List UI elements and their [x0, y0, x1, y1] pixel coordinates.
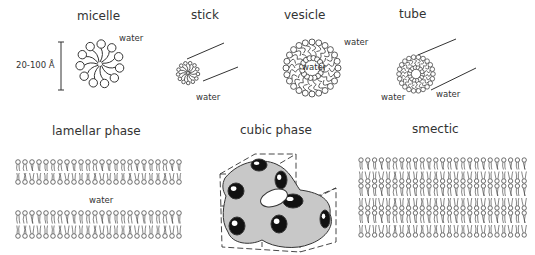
smectic-figure — [359, 158, 527, 237]
tube-water-outside-label: water — [436, 89, 460, 99]
smectic-title: smectic — [412, 122, 459, 136]
micelle-figure — [58, 40, 124, 90]
cubic-phase-figure — [220, 154, 336, 252]
stick-water-label: water — [196, 92, 220, 102]
cubic-title: cubic phase — [240, 123, 312, 137]
lamellar-water-label: water — [89, 195, 113, 205]
micelle-title: micelle — [77, 9, 120, 23]
tube-water-inside-label: water — [381, 92, 405, 102]
stick-figure — [176, 43, 238, 85]
vesicle-water-inside-label: water — [302, 62, 326, 72]
tube-title: tube — [399, 7, 426, 21]
micelle-water-label: water — [119, 33, 143, 43]
lamellar-title: lamellar phase — [52, 124, 141, 138]
stick-title: stick — [191, 8, 219, 22]
micelle-size-label: 20-100 Å — [16, 60, 55, 70]
vesicle-water-outside-label: water — [344, 37, 368, 47]
vesicle-title: vesicle — [284, 8, 325, 22]
tube-figure — [397, 39, 476, 93]
